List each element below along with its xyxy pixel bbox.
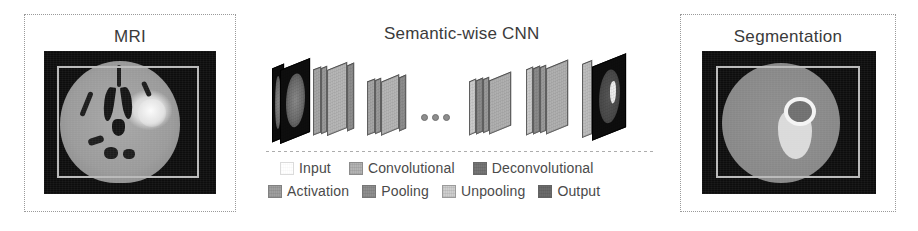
legend-swatch-deconvolutional-icon [473,162,487,175]
legend-label-convolutional: Convolutional [368,160,455,176]
cnn-ellipsis-dot-3 [443,114,450,121]
cnn-ellipsis-dot-1 [421,114,428,121]
cnn-layer-deconvolutional-1b [489,72,511,135]
legend-label-output: Output [557,183,600,199]
cnn-layer-output [592,53,626,141]
legend-row-1: Input Convolutional Deconvolutional [280,160,594,176]
cnn-layer-pooling-1 [347,63,354,132]
cnn-layer-pooling-2 [399,75,406,132]
cnn-layer-deconvolutional-2a [533,66,540,135]
cnn-layer-unpooling-1 [469,79,476,136]
mri-region-of-interest-box [57,66,199,178]
legend-item-activation: Activation [268,183,349,199]
cnn-output-texture [593,55,625,140]
cnn-layer-deconvolutional-2b [546,60,568,135]
cnn-layer-convolutional-1a [313,66,321,135]
legend-item-convolutional: Convolutional [349,160,455,176]
cnn-ellipsis-dot-2 [432,114,439,121]
legend-label-input: Input [299,160,331,176]
legend-item-output: Output [538,183,600,199]
legend-label-unpooling: Unpooling [461,183,525,199]
mri-scan-image [44,51,216,194]
legend-label-deconvolutional: Deconvolutional [492,160,594,176]
cnn-input-face-texture [281,59,309,142]
legend-swatch-unpooling-icon [442,185,456,198]
mri-panel: MRI [24,14,236,212]
cnn-ellipsis [421,114,450,121]
cnn-layer-unpooling-2 [526,67,533,136]
legend-swatch-activation-icon [268,185,282,198]
legend-label-pooling: Pooling [381,183,429,199]
legend-row-2: Activation Pooling Unpooling Output [268,183,600,199]
legend-label-activation: Activation [287,183,349,199]
segmentation-panel: Segmentation [680,14,896,212]
cnn-layer-deconvolutional-1a [476,78,483,135]
legend-swatch-pooling-icon [362,185,376,198]
legend-item-unpooling: Unpooling [442,183,525,199]
cnn-layer-convolutional-1b [327,62,347,136]
segmentation-region-of-interest-box [716,66,860,178]
mri-panel-title: MRI [25,27,235,47]
cnn-layer-convolutional-2b [381,74,399,135]
segmentation-scan-image [702,51,876,194]
legend-swatch-convolutional-icon [349,162,363,175]
cnn-layer-input-face [280,58,310,144]
legend-swatch-input-icon [280,162,294,175]
cnn-layer-convolutional-2a [367,78,375,135]
legend-item-deconvolutional: Deconvolutional [473,160,594,176]
cnn-layer-output-edge [582,60,592,138]
legend-item-pooling: Pooling [362,183,429,199]
semantic-wise-cnn-diagram: Semantic-wise CNN [266,8,658,208]
segmentation-panel-title: Segmentation [681,27,895,47]
legend-item-input: Input [280,160,331,176]
cnn-layer-stack [266,8,658,148]
legend-swatch-output-icon [538,185,552,198]
legend-divider [266,151,656,152]
